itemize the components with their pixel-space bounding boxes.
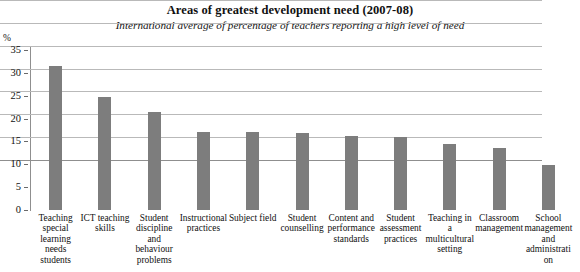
y-tick-mark <box>24 73 28 74</box>
bar <box>197 132 210 210</box>
x-category-label: Content and performance standards <box>327 213 376 244</box>
y-axis-tick-labels: 05101520253035 <box>0 0 31 272</box>
bar <box>345 136 358 211</box>
y-tick-label: 25 <box>11 91 22 101</box>
y-tick-mark <box>24 164 28 165</box>
y-tick-mark <box>24 187 28 188</box>
y-tick-label: 35 <box>11 45 22 55</box>
y-tick-mark <box>24 119 28 120</box>
bar <box>49 66 62 210</box>
x-category-label: Student discipline and behaviour problem… <box>130 213 179 265</box>
chart-subtitle: International average of percentage of t… <box>0 18 580 32</box>
bar <box>296 133 309 210</box>
x-category-label: ICT teaching skills <box>80 213 129 234</box>
y-tick-label: 5 <box>16 182 21 192</box>
y-tick-label: 15 <box>11 136 22 146</box>
y-tick-mark <box>24 50 28 51</box>
bar <box>394 137 407 210</box>
chart-title: Areas of greatest development need (2007… <box>0 3 580 18</box>
x-category-label: Classroom management <box>474 213 523 234</box>
bar-chart-figure: Areas of greatest development need (2007… <box>0 0 580 272</box>
x-category-label: Teaching in a multicultural setting <box>425 213 474 255</box>
bar <box>98 97 111 210</box>
bar <box>246 132 259 210</box>
y-tick-mark <box>24 141 28 142</box>
bar <box>443 144 456 210</box>
bar <box>148 112 161 210</box>
x-category-label: School management and administration <box>524 213 573 265</box>
x-category-label: Instructional practices <box>179 213 228 234</box>
gridline <box>0 0 542 1</box>
bars-layer <box>31 50 573 210</box>
y-tick-label: 20 <box>11 114 22 124</box>
y-tick-mark <box>24 96 28 97</box>
x-category-label: Student assessment practices <box>376 213 425 244</box>
y-tick-label: 30 <box>11 68 22 78</box>
x-axis-category-labels: Teaching special learning needs students… <box>31 213 573 272</box>
gridline <box>0 46 542 47</box>
bar <box>542 165 555 210</box>
y-tick-label: 10 <box>11 159 22 169</box>
y-tick-label: 0 <box>16 205 21 215</box>
x-category-label: Teaching special learning needs students <box>31 213 80 265</box>
x-category-label: Student counselling <box>277 213 326 234</box>
y-tick-mark <box>24 210 28 211</box>
chart-title-block: Areas of greatest development need (2007… <box>0 3 580 32</box>
bar <box>493 148 506 210</box>
x-category-label: Subject field <box>228 213 277 223</box>
